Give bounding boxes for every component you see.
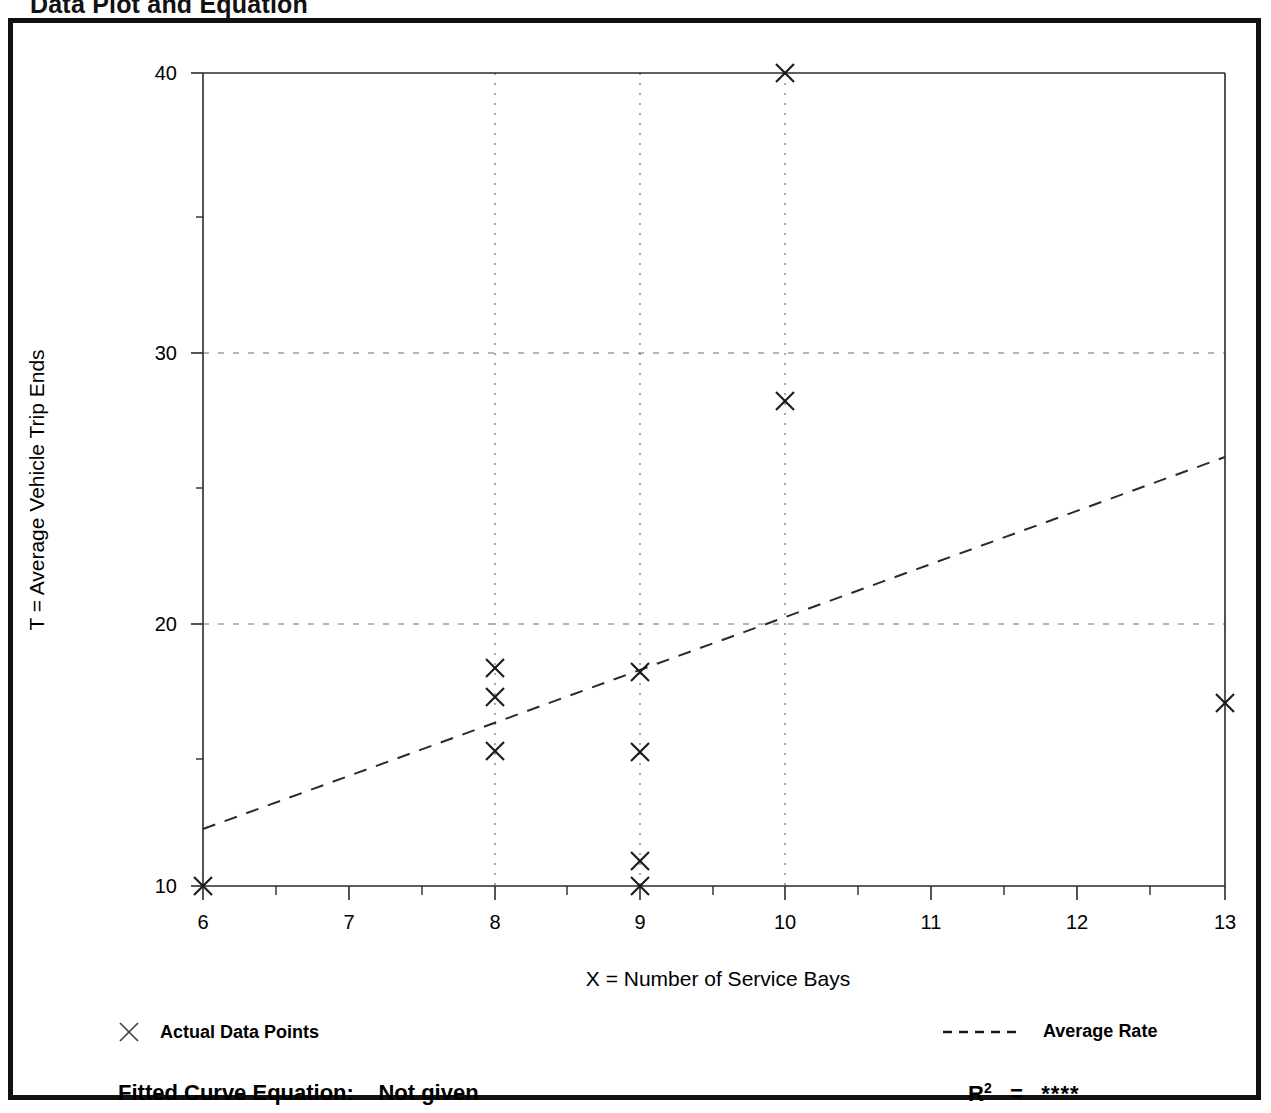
y-tick-label: 10 bbox=[133, 875, 177, 898]
y-tick-label: 30 bbox=[133, 342, 177, 365]
r-squared-equals: = bbox=[1010, 1081, 1023, 1106]
y-axis-title: T = Average Vehicle Trip Ends bbox=[25, 280, 49, 700]
y-axis-major-ticks bbox=[191, 73, 203, 886]
y-tick-label: 20 bbox=[133, 613, 177, 636]
fitted-curve-equation-value: Not given bbox=[378, 1080, 478, 1105]
x-tick-label: 13 bbox=[1214, 911, 1236, 934]
r-squared-symbol: R bbox=[968, 1081, 984, 1106]
legend-item-average-rate: Average Rate bbox=[943, 1021, 1157, 1042]
data-point bbox=[631, 743, 649, 761]
axis-lines bbox=[203, 73, 1225, 886]
page-title: Data Plot and Equation bbox=[30, 0, 308, 19]
x-axis-title: X = Number of Service Bays bbox=[193, 967, 1243, 991]
x-tick-label: 6 bbox=[197, 911, 208, 934]
average-rate-line bbox=[203, 457, 1225, 829]
legend-label-data-points: Actual Data Points bbox=[160, 1022, 319, 1043]
x-tick-label: 7 bbox=[343, 911, 354, 934]
x-tick-label: 10 bbox=[774, 911, 796, 934]
fitted-curve-equation: Fitted Curve Equation: Not given bbox=[118, 1080, 479, 1106]
x-tick-label: 8 bbox=[489, 911, 500, 934]
chart-card: 40 30 20 10 6 7 8 9 10 11 12 13 T = Aver… bbox=[8, 18, 1261, 1100]
r-squared-statistic: R2 = **** bbox=[968, 1080, 1080, 1107]
x-axis-minor-ticks bbox=[276, 886, 1150, 895]
x-marker-icon bbox=[118, 1021, 140, 1043]
grid-vertical bbox=[495, 73, 785, 886]
legend-item-data-points: Actual Data Points bbox=[118, 1021, 319, 1043]
data-points bbox=[194, 64, 1234, 895]
r-squared-value: **** bbox=[1041, 1081, 1079, 1106]
y-tick-label: 40 bbox=[133, 62, 177, 85]
chart-plot-area bbox=[13, 23, 1256, 1095]
data-point bbox=[631, 663, 649, 681]
r-squared-exponent: 2 bbox=[984, 1080, 992, 1096]
y-axis-minor-ticks bbox=[196, 217, 203, 759]
fitted-curve-equation-label: Fitted Curve Equation: bbox=[118, 1080, 354, 1105]
x-tick-label: 12 bbox=[1066, 911, 1088, 934]
grid-horizontal bbox=[203, 353, 1225, 624]
dashed-line-icon bbox=[943, 1026, 1023, 1038]
x-tick-label: 11 bbox=[921, 911, 942, 934]
x-tick-label: 9 bbox=[634, 911, 645, 934]
legend-label-average-rate: Average Rate bbox=[1043, 1021, 1157, 1042]
x-axis-major-ticks bbox=[203, 886, 1225, 900]
